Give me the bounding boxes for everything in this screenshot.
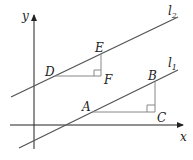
point-c-label: C bbox=[157, 111, 166, 125]
parallel-lines-diagram: x y l2 l1 D E F A B C bbox=[0, 0, 193, 160]
right-angle-f bbox=[94, 70, 101, 76]
y-axis-label: y bbox=[21, 9, 29, 23]
point-f-label: F bbox=[103, 73, 113, 87]
point-d-label: D bbox=[44, 65, 55, 79]
line-l2-label: l2 bbox=[168, 4, 177, 20]
right-angle-c bbox=[147, 105, 155, 112]
point-b-label: B bbox=[147, 69, 157, 83]
line-l1-label: l1 bbox=[168, 56, 177, 72]
x-axis-label: x bbox=[180, 130, 187, 144]
point-a-label: A bbox=[81, 100, 91, 114]
line-l2 bbox=[11, 17, 178, 97]
point-e-label: E bbox=[94, 41, 104, 55]
